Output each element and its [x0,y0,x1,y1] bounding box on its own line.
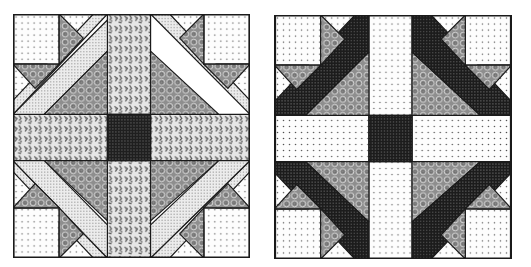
quilt-block-left-art [13,14,250,258]
quilt-block-left [13,14,250,258]
quilt-block-right-art [274,15,512,259]
quilt-block-right [274,15,512,259]
